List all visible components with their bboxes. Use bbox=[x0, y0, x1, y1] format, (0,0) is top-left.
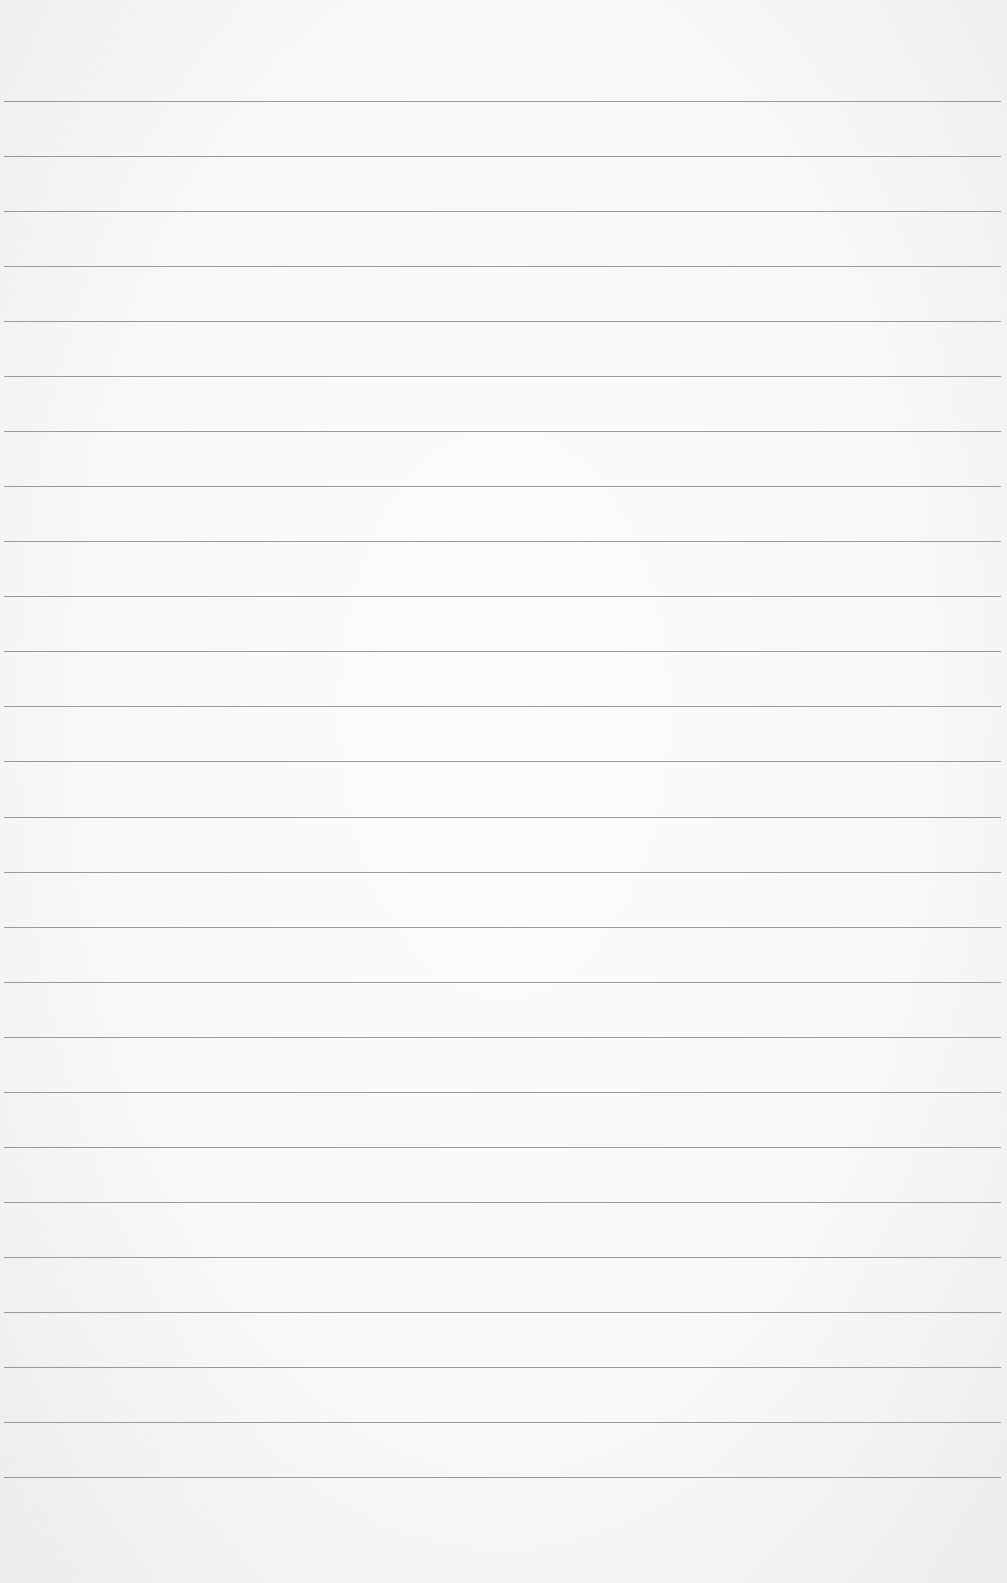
ruled-line bbox=[4, 651, 1001, 652]
ruled-line bbox=[4, 982, 1001, 983]
ruled-line bbox=[4, 1202, 1001, 1203]
ruled-line bbox=[4, 817, 1001, 818]
ruled-line bbox=[4, 596, 1001, 597]
ruled-line bbox=[4, 1037, 1001, 1038]
ruled-line bbox=[4, 376, 1001, 377]
ruled-line bbox=[4, 1422, 1001, 1423]
ruled-line bbox=[4, 1477, 1001, 1478]
ruled-line bbox=[4, 486, 1001, 487]
ruled-line bbox=[4, 266, 1001, 267]
ruled-line bbox=[4, 211, 1001, 212]
ruled-line bbox=[4, 872, 1001, 873]
ruled-line bbox=[4, 1312, 1001, 1313]
ruled-line bbox=[4, 761, 1001, 762]
ruled-line bbox=[4, 431, 1001, 432]
ruled-line bbox=[4, 706, 1001, 707]
ruled-line bbox=[4, 1257, 1001, 1258]
lined-paper bbox=[0, 0, 1007, 1583]
ruled-line bbox=[4, 927, 1001, 928]
ruled-line bbox=[4, 156, 1001, 157]
ruled-line bbox=[4, 101, 1001, 102]
ruled-line bbox=[4, 1367, 1001, 1368]
ruled-line bbox=[4, 1092, 1001, 1093]
ruled-line bbox=[4, 1147, 1001, 1148]
ruled-line bbox=[4, 321, 1001, 322]
ruled-line bbox=[4, 541, 1001, 542]
